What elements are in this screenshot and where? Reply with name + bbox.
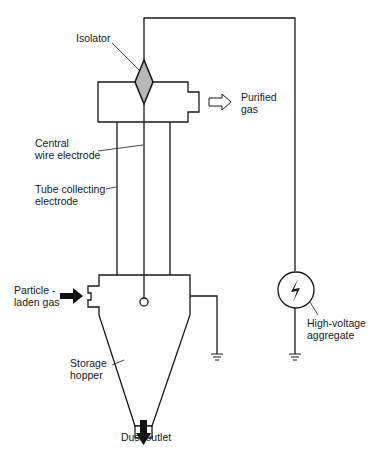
tube-electrode-label-2: electrode	[35, 195, 78, 207]
high-voltage-label-2: aggregate	[307, 329, 354, 341]
central-wire-label-2: wire electrode	[35, 149, 100, 161]
chamber-ground-wire	[190, 296, 217, 354]
isolator-label: Isolator	[76, 32, 110, 44]
wire-weight	[140, 298, 148, 306]
purified-gas-label-1: Purified	[241, 91, 277, 103]
tube-leader	[106, 187, 116, 189]
wire-leader	[98, 145, 143, 151]
lightning-icon	[291, 279, 300, 302]
isolator-icon	[135, 60, 153, 104]
ground-icon	[211, 354, 223, 360]
storage-hopper-label-2: hopper	[70, 369, 103, 381]
inlet-arrow-icon	[60, 288, 83, 304]
ground-icon	[289, 354, 301, 360]
particle-gas-label-2: laden gas	[14, 296, 60, 308]
bottom-chamber-hopper	[88, 275, 190, 426]
outlet-arrow-icon	[209, 94, 231, 110]
precipitator-diagram	[0, 0, 376, 452]
isolator-leader	[112, 43, 139, 70]
high-voltage-wire	[144, 18, 295, 271]
aggregate-leader	[310, 302, 318, 315]
storage-hopper-label-1: Storage	[70, 357, 107, 369]
dust-outlet-label: Dust outlet	[121, 431, 171, 443]
high-voltage-label-1: High-voltage	[307, 317, 366, 329]
purified-gas-label-2: gas	[241, 103, 258, 115]
central-wire-label-1: Central	[35, 137, 69, 149]
tube-electrode-label-1: Tube collecting	[35, 183, 105, 195]
particle-gas-label-1: Particle -	[14, 284, 55, 296]
